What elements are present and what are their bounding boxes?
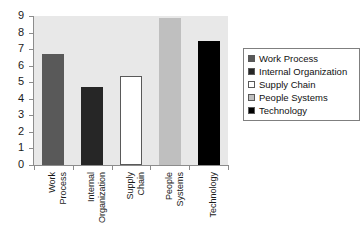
legend-swatch-icon: [248, 107, 255, 114]
x-axis-tick: [73, 166, 74, 170]
x-axis-category-label-line: Work: [47, 172, 58, 205]
legend-item-label: Technology: [259, 105, 307, 116]
y-axis-tick-label: 2: [0, 126, 24, 137]
bar-chart: 0123456789 WorkProcessInternalOrganizati…: [0, 0, 364, 226]
y-axis-tick-label: 0: [0, 159, 24, 170]
y-axis-tick: [29, 66, 34, 67]
legend-swatch-icon: [248, 81, 255, 88]
bar: [198, 41, 220, 165]
legend: Work ProcessInternal OrganizationSupply …: [243, 48, 360, 121]
legend-item[interactable]: Supply Chain: [248, 78, 355, 91]
bar: [81, 87, 103, 165]
bar: [120, 76, 142, 165]
x-axis-tick: [112, 166, 113, 170]
y-axis-tick: [29, 115, 34, 116]
y-axis-tick: [29, 16, 34, 17]
legend-item[interactable]: Technology: [248, 104, 355, 117]
x-axis-category-label-line: Internal: [86, 172, 97, 223]
x-axis-category-label-line: Chain: [136, 172, 147, 200]
x-axis-category-label-line: Systems: [175, 172, 186, 207]
y-axis-tick: [29, 99, 34, 100]
y-axis-line: [33, 16, 34, 166]
legend-item-label: People Systems: [259, 92, 328, 103]
legend-item[interactable]: People Systems: [248, 91, 355, 104]
x-axis-category-label: Technology: [208, 172, 219, 218]
x-axis-category-label: SupplyChain: [125, 172, 147, 200]
bar: [159, 18, 181, 165]
legend-item-label: Work Process: [259, 53, 318, 64]
legend-swatch-icon: [248, 55, 255, 62]
legend-swatch-icon: [248, 68, 255, 75]
legend-item-label: Supply Chain: [259, 79, 316, 90]
bar: [42, 54, 64, 165]
x-axis-tick: [34, 166, 35, 170]
x-axis-category-label-line: Technology: [208, 172, 219, 218]
y-axis-tick-label: 5: [0, 76, 24, 87]
y-axis-tick: [29, 148, 34, 149]
legend-item[interactable]: Internal Organization: [248, 65, 355, 78]
y-axis-tick-label: 7: [0, 43, 24, 54]
x-axis-tick: [189, 166, 190, 170]
legend-item-label: Internal Organization: [259, 66, 347, 77]
y-axis-tick-label: 8: [0, 27, 24, 38]
y-axis-tick: [29, 49, 34, 50]
y-axis-tick: [29, 82, 34, 83]
legend-item[interactable]: Work Process: [248, 52, 355, 65]
x-axis-line: [33, 165, 229, 166]
x-axis-tick: [228, 166, 229, 170]
x-axis-category-label: InternalOrganization: [86, 172, 108, 223]
y-axis-tick: [29, 33, 34, 34]
y-axis-tick-label: 6: [0, 60, 24, 71]
x-axis-category-label: PeopleSystems: [164, 172, 186, 207]
x-axis-tick: [150, 166, 151, 170]
y-axis-tick-label: 9: [0, 10, 24, 21]
y-axis-tick-label: 1: [0, 142, 24, 153]
y-axis-tick: [29, 132, 34, 133]
x-axis-category-label-line: Process: [58, 172, 69, 205]
x-axis-category-label-line: Organization: [97, 172, 108, 223]
y-axis-tick-label: 3: [0, 109, 24, 120]
x-axis-category-label: WorkProcess: [47, 172, 69, 205]
y-axis-tick-label: 4: [0, 93, 24, 104]
legend-swatch-icon: [248, 94, 255, 101]
x-axis-category-label-line: Supply: [125, 172, 136, 200]
x-axis-category-label-line: People: [164, 172, 175, 207]
